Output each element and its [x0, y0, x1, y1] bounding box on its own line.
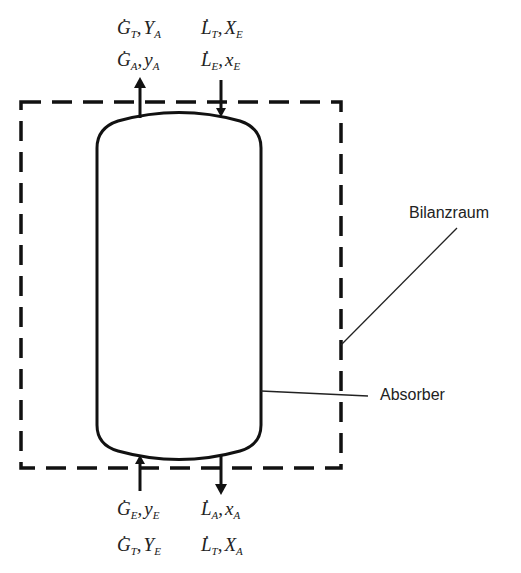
liquid-outlet-arrow	[215, 455, 227, 495]
absorber-leader-line	[261, 391, 368, 396]
stream-label-top-right-1: ·LT,XE	[201, 18, 243, 40]
absorber-vessel	[97, 113, 261, 460]
gas-outlet-arrow	[134, 77, 146, 118]
stream-label-bottom-left-2: ·GT,YE	[117, 535, 161, 557]
stream-label-top-left-2: ·GA,yA	[117, 50, 159, 72]
stream-label-top-right-2: ·LE,xE	[201, 50, 240, 72]
absorber-label: Absorber	[380, 386, 445, 404]
boundary-leader-line	[341, 228, 457, 345]
gas-inlet-arrow	[135, 455, 145, 491]
stream-label-bottom-right-2: ·LT,XA	[201, 535, 243, 557]
absorber-diagram	[0, 0, 521, 573]
stream-label-bottom-right-1: ·LA,xA	[201, 499, 240, 521]
liquid-inlet-arrow	[216, 80, 226, 117]
stream-label-top-left-1: ·GT,YA	[117, 18, 161, 40]
stream-label-bottom-left-1: ·GE,yE	[117, 499, 159, 521]
boundary-label: Bilanzraum	[409, 204, 489, 222]
